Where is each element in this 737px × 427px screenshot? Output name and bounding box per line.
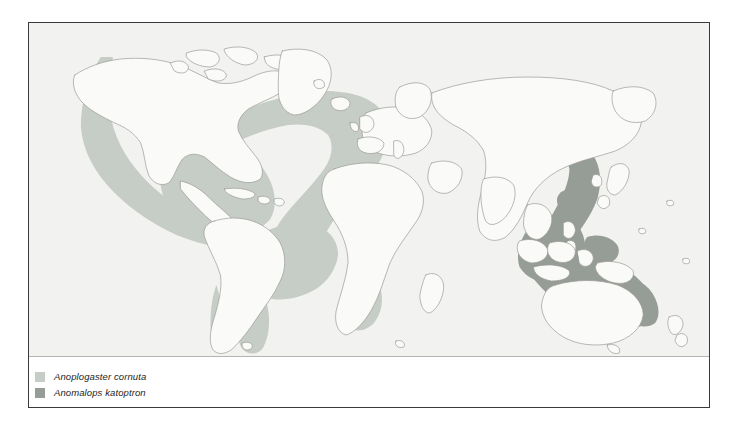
legend-label-anoplogaster-cornuta: Anoplogaster cornuta (54, 371, 146, 382)
legend-item-anomalops-katoptron: Anomalops katoptron (35, 386, 146, 399)
legend-swatch-anomalops-katoptron (35, 388, 45, 398)
world-map-svg (29, 23, 709, 356)
map-panel (29, 23, 709, 356)
legend-label-anomalops-katoptron: Anomalops katoptron (54, 387, 146, 398)
legend-item-anoplogaster-cornuta: Anoplogaster cornuta (35, 370, 146, 383)
distribution-map-figure: Anoplogaster cornuta Anomalops katoptron (28, 22, 710, 408)
map-legend: Anoplogaster cornuta Anomalops katoptron (29, 357, 709, 407)
legend-swatch-anoplogaster-cornuta (35, 372, 45, 382)
